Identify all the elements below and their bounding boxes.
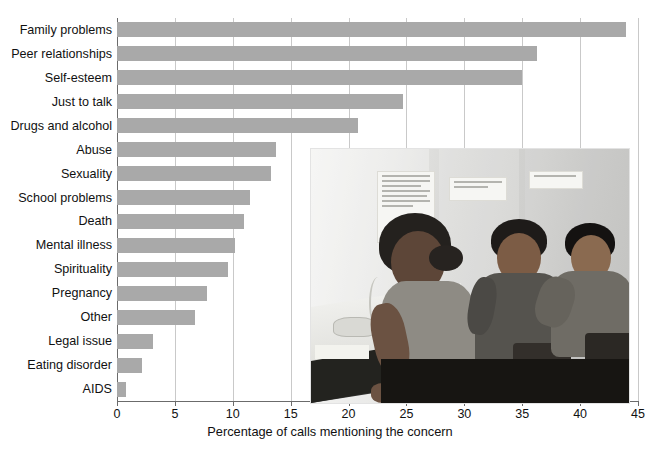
x-tick-label: 30 (444, 407, 484, 421)
category-label: Death (78, 215, 112, 228)
x-tick-label: 10 (213, 407, 253, 421)
bar (117, 94, 403, 109)
bar (117, 190, 250, 205)
bar (117, 286, 207, 301)
x-tick-label: 45 (618, 407, 658, 421)
bar-row (117, 114, 638, 138)
category-label: Spirituality (54, 263, 112, 276)
category-label: Legal issue (48, 335, 112, 348)
inset-photo (310, 148, 630, 404)
x-tick-label: 35 (502, 407, 542, 421)
x-tick-label: 25 (386, 407, 426, 421)
category-label: Family problems (20, 24, 112, 37)
wall-note-3 (529, 171, 583, 189)
bar-row (117, 42, 638, 66)
x-tick-label: 40 (560, 407, 600, 421)
category-label: Pregnancy (52, 287, 112, 300)
x-tick-label: 20 (329, 407, 369, 421)
bar (117, 358, 142, 373)
desk-note (315, 345, 369, 359)
bar (117, 22, 626, 37)
bar (117, 214, 244, 229)
bar-row (117, 18, 638, 42)
x-tick-label: 5 (155, 407, 195, 421)
gridline (638, 18, 639, 401)
floor-shadow (381, 359, 629, 403)
bar (117, 46, 537, 61)
x-tick-label: 15 (271, 407, 311, 421)
category-label: Peer relationships (11, 48, 112, 61)
hair-bun (429, 245, 463, 271)
category-label: Eating disorder (27, 359, 112, 372)
category-label: Mental illness (36, 239, 112, 252)
category-label: Sexuality (61, 168, 112, 181)
category-label: AIDS (83, 383, 112, 396)
bar (117, 310, 195, 325)
bar-row (117, 66, 638, 90)
bar (117, 166, 271, 181)
person-right (549, 223, 630, 363)
category-label: Self-esteem (45, 72, 112, 85)
bar (117, 70, 522, 85)
bar-chart: Family problemsPeer relationshipsSelf-es… (0, 0, 660, 449)
bar (117, 382, 126, 397)
bar-row (117, 90, 638, 114)
category-label: Drugs and alcohol (10, 120, 112, 133)
category-label: Just to talk (52, 96, 112, 109)
category-axis: Family problemsPeer relationshipsSelf-es… (0, 18, 112, 401)
bar (117, 142, 276, 157)
category-label: Abuse (76, 144, 112, 157)
category-label: School problems (18, 192, 112, 205)
bar (117, 334, 153, 349)
category-label: Other (81, 311, 113, 324)
x-tick-label: 0 (97, 407, 137, 421)
x-axis-title: Percentage of calls mentioning the conce… (0, 424, 660, 439)
bar (117, 262, 228, 277)
wall-note-2 (449, 177, 507, 201)
bar (117, 118, 358, 133)
bar (117, 238, 235, 253)
